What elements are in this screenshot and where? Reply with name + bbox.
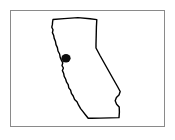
- map-figure: [0, 0, 175, 140]
- location-marker: [61, 54, 70, 62]
- california-state-outline: [52, 18, 120, 119]
- map-canvas: [0, 0, 175, 140]
